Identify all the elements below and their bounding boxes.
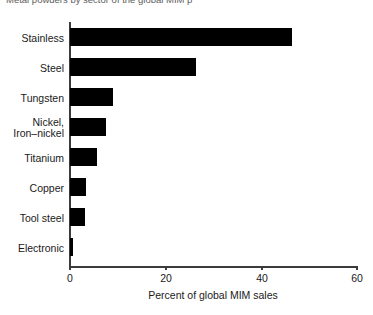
x-tick-label-40: 40 [242,272,282,284]
x-tick-0 [69,266,71,270]
bar-stainless [70,28,292,46]
bar-chart-figure: Metal powders by sector of the global MI… [0,0,373,315]
x-tick-label-20: 20 [146,272,186,284]
x-tick-label-60: 60 [337,272,373,284]
bar-nickel [70,118,106,136]
x-axis-line [69,266,357,268]
bar-tool-steel [70,208,85,226]
chart-title: Metal powders by sector of the global MI… [6,0,366,6]
category-label-stainless: Stainless [0,33,64,45]
plot-area [70,22,357,266]
category-label-titanium: Titanium [0,153,64,165]
category-label-copper: Copper [0,183,64,195]
category-label-tungsten: Tungsten [0,93,64,105]
category-label-nickel-line2: Iron–nickel [0,128,64,140]
x-tick-40 [261,266,263,270]
bar-tungsten [70,88,113,106]
x-tick-20 [165,266,167,270]
category-label-tool-steel: Tool steel [0,213,64,225]
bar-steel [70,58,196,76]
category-label-electronic: Electronic [0,243,64,255]
bar-copper [70,178,86,196]
category-label-steel: Steel [0,63,64,75]
x-axis-title: Percent of global MIM sales [69,289,357,301]
x-tick-label-0: 0 [50,272,90,284]
bar-titanium [70,148,97,166]
bar-electronic [70,238,73,256]
x-tick-60 [356,266,358,270]
